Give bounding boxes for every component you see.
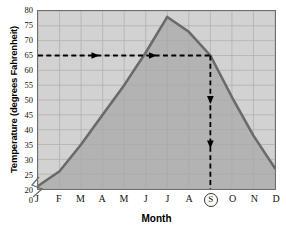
x-tick-label-september: S: [201, 193, 221, 207]
temperature-line-chart: Temperature (degrees Fahrenheit) 2025303…: [0, 0, 286, 229]
y-tick-label: 40: [15, 126, 33, 134]
x-tick-label-october: O: [223, 193, 243, 205]
x-tick-label-december: D: [266, 193, 286, 205]
y-tick-label: 50: [15, 96, 33, 104]
x-tick-label-july: J: [157, 193, 177, 205]
y-tick-label: 75: [15, 21, 33, 29]
x-tick-label-march: M: [70, 193, 90, 205]
x-tick-label-april: A: [92, 193, 112, 205]
y-tick-label: 45: [15, 111, 33, 119]
y-tick-label: 70: [15, 36, 33, 44]
y-tick-label: 65: [15, 51, 33, 59]
x-tick-label-january: J: [27, 193, 47, 205]
x-axis-title: Month: [37, 213, 276, 224]
circled-month-marker: S: [204, 193, 218, 207]
x-tick-label-august: A: [179, 193, 199, 205]
x-tick-label-february: F: [49, 193, 69, 205]
x-tick-label-november: N: [244, 193, 264, 205]
y-tick-label: 55: [15, 81, 33, 89]
x-tick-label-june: J: [136, 193, 156, 205]
y-tick-label: 80: [15, 6, 33, 14]
y-tick-label: 60: [15, 66, 33, 74]
y-tick-label: 30: [15, 156, 33, 164]
y-tick-label: 35: [15, 141, 33, 149]
x-tick-label-may: M: [114, 193, 134, 205]
grid-and-data-svg: [38, 11, 275, 189]
plot-area: [37, 10, 276, 190]
